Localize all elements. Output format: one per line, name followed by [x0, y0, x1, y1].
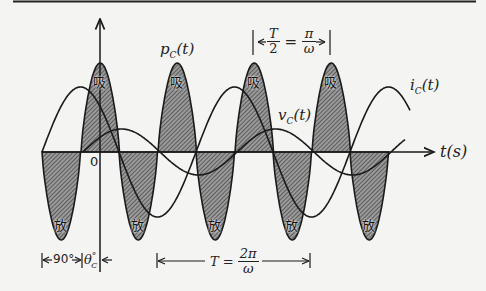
current-curve-label: iC(t) — [410, 76, 439, 96]
absorb-label: 吸 — [324, 72, 337, 91]
voltage-curve-label: vC(t) — [278, 106, 311, 126]
absorb-label: 吸 — [170, 72, 183, 91]
release-label: 放 — [285, 215, 298, 234]
half-period-label: T2 = πω — [267, 27, 316, 56]
release-label: 放 — [54, 215, 67, 234]
absorb-label: 吸 — [247, 72, 260, 91]
release-label: 放 — [362, 215, 375, 234]
period-label: T = 2πω — [210, 247, 259, 276]
origin-label: 0 — [90, 154, 98, 169]
time-axis-label: t(s) — [440, 142, 467, 161]
absorb-label: 吸 — [93, 72, 106, 91]
release-label: 放 — [208, 215, 221, 234]
power-curve-label: pC(t) — [160, 40, 194, 60]
phase-90-label: 90° — [53, 252, 74, 266]
release-label: 放 — [131, 215, 144, 234]
theta-c-label: θ°C — [84, 251, 97, 270]
